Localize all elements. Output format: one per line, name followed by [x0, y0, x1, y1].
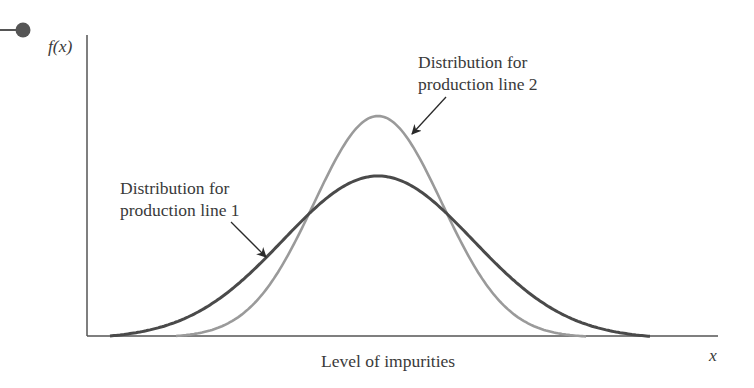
x-axis-symbol: x: [709, 344, 717, 366]
bullet-dot: [16, 23, 31, 38]
x-axis-title: Level of impurities: [321, 350, 455, 372]
annotation-line-2-top: Distribution for: [418, 51, 527, 73]
figure: f(x) x Level of impurities Distribution …: [0, 0, 754, 388]
curve-production-line-2: [176, 116, 586, 336]
annotation-line-1-top: Distribution for: [120, 177, 229, 199]
annotation-line-2-bottom: production line 2: [418, 73, 538, 95]
arrow-line-1: [231, 222, 266, 257]
arrow-line-2: [412, 97, 446, 134]
y-axis-label: f(x): [48, 35, 72, 57]
plot-area: [0, 0, 754, 388]
annotation-line-1-bottom: production line 1: [120, 199, 240, 221]
